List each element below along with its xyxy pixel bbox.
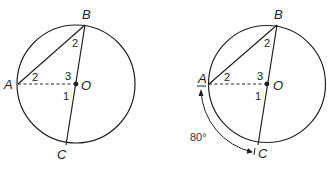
right-label-O: O <box>273 78 283 93</box>
arc-80-arrow <box>201 91 252 152</box>
left-label-C: C <box>57 147 67 162</box>
right-angle-2-at-A: 2 <box>224 71 230 83</box>
right-angle-3: 3 <box>257 70 263 82</box>
left-angle-3: 3 <box>65 70 71 82</box>
right-center-dot <box>265 82 270 87</box>
diagram-canvas: A B C O 2 2 3 1 A B C O 2 2 3 1 80° <box>0 0 333 170</box>
right-tick-C <box>254 148 255 155</box>
right-angle-2-at-B: 2 <box>264 37 270 49</box>
left-figure: A B C O 2 2 3 1 <box>3 7 135 162</box>
left-angle-1: 1 <box>63 90 69 102</box>
arc-arrowhead-up-icon <box>199 89 204 96</box>
left-label-A: A <box>3 77 13 92</box>
right-figure: A B C O 2 2 3 1 80° <box>190 7 326 161</box>
left-angle-2-at-B: 2 <box>72 37 78 49</box>
arc-label-80-degrees: 80° <box>190 131 207 143</box>
left-angle-2-at-A: 2 <box>32 71 38 83</box>
right-chord-AB <box>209 25 277 84</box>
right-angle-1: 1 <box>255 90 261 102</box>
left-label-B: B <box>82 7 91 22</box>
right-label-A: A <box>197 71 207 86</box>
right-label-B: B <box>274 7 283 22</box>
right-label-C: C <box>258 146 268 161</box>
left-center-dot <box>74 82 79 87</box>
left-chord-AB <box>18 25 85 84</box>
left-label-O: O <box>81 78 91 93</box>
